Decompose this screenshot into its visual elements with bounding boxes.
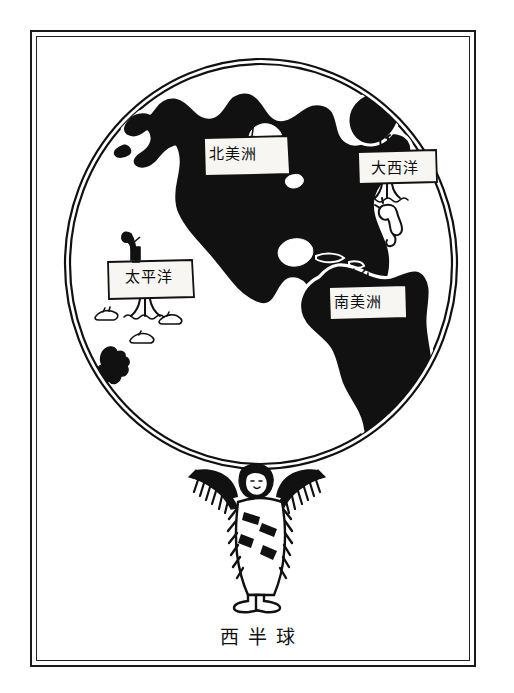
illustration-page: 北美洲 大西洋 太平洋 南美洲 西半球 bbox=[0, 0, 514, 693]
hemisphere-illustration bbox=[0, 0, 514, 693]
southern-island bbox=[381, 439, 403, 448]
label-north-america: 北美洲 bbox=[209, 147, 257, 162]
island-cluster-icon bbox=[98, 347, 130, 384]
native-american-atlas-figure bbox=[189, 464, 325, 612]
label-pacific-ocean: 太平洋 bbox=[125, 270, 173, 285]
pacific-wave-doodles bbox=[95, 307, 182, 343]
figure-caption: 西半球 bbox=[0, 622, 514, 649]
label-atlantic-ocean: 大西洋 bbox=[371, 161, 419, 176]
label-south-america: 南美洲 bbox=[334, 295, 382, 310]
lookout-with-spyglass-icon bbox=[122, 232, 140, 262]
